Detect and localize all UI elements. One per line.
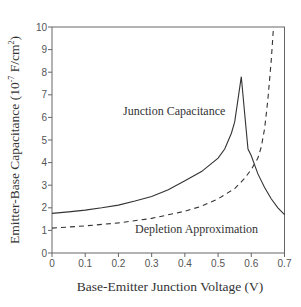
junction-capacitance-curve [52,77,285,215]
x-tick-label: 0.3 [145,258,159,269]
y-tick-label: 9 [41,44,47,55]
y-tick-label: 4 [41,157,47,168]
y-tick-label: 10 [36,22,48,33]
y-tick-label: 1 [41,225,47,236]
capacitance-chart: 012345678910 00.10.20.30.40.50.60.7 Junc… [0,0,301,307]
y-tick-label: 6 [41,112,47,123]
y-tick-label: 8 [41,67,47,78]
plot-frame [52,27,285,253]
y-tick-label: 0 [41,248,47,259]
y-axis-ticks: 012345678910 [36,22,52,259]
x-axis-title: Base-Emitter Junction Voltage (V) [77,279,264,294]
y-tick-label: 7 [41,89,47,100]
depletion-approximation-curve [52,27,274,228]
y-tick-label: 3 [41,180,47,191]
x-tick-label: 0 [49,258,55,269]
x-tick-label: 0.2 [111,258,125,269]
x-tick-label: 0.6 [244,258,258,269]
y-tick-label: 5 [41,135,47,146]
y-axis-title: Emitter-Base Capacitance (10-7 F/cm2) [7,36,22,244]
x-tick-label: 0.5 [211,258,225,269]
y-tick-label: 2 [41,202,47,213]
depletion-approximation-label: Depletion Approximation [135,222,258,236]
x-tick-label: 0.1 [78,258,92,269]
x-tick-label: 0.7 [278,258,292,269]
x-tick-label: 0.4 [178,258,192,269]
junction-capacitance-label: Junction Capacitance [123,104,225,118]
x-axis-ticks: 00.10.20.30.40.50.60.7 [49,253,292,269]
